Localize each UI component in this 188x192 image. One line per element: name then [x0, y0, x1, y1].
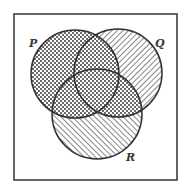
label-q: Q [155, 37, 165, 50]
venn-diagram: P Q R [0, 0, 188, 192]
label-p: P [28, 37, 38, 50]
label-r: R [125, 151, 135, 164]
